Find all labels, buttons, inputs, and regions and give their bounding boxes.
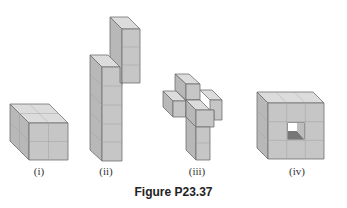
cube-figure-iv [257, 92, 324, 159]
cube-figure-iii [163, 74, 222, 160]
panel-label-iv: (iv) [277, 165, 317, 177]
panel-label-ii: (ii) [86, 165, 126, 177]
figure-caption: Figure P23.37 [0, 185, 347, 199]
cube-figure-ii [90, 17, 140, 161]
cube-figure-i [10, 104, 68, 160]
panel-label-iii: (iii) [177, 165, 217, 177]
panel-label-i: (i) [19, 165, 59, 177]
